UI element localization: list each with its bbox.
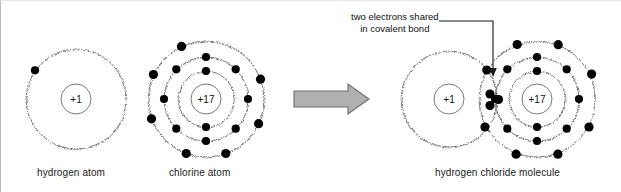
hydrogen-nucleus-charge-label: +1 [70,94,82,105]
electron [480,122,489,131]
hydrogen-electron [31,66,39,74]
electron [533,67,541,75]
electron [503,65,511,73]
electron [172,65,180,73]
electron [482,65,491,74]
electron [244,95,252,103]
molecule-chlorine-charge-label: +17 [529,94,546,105]
annotation-line-2: in covalent bond [351,23,439,35]
electron [563,65,571,73]
electron [202,137,210,145]
caption-hydrogen-chloride-molecule: hydrogen chloride molecule [435,167,560,178]
electron [533,53,541,61]
electron [147,114,156,123]
electron [575,95,583,103]
electron [503,125,511,133]
shared-electron-pair [485,89,503,110]
electron [221,149,230,158]
electron [202,123,210,131]
electron [511,150,520,159]
electron [533,123,541,131]
diagram-canvas: +1 +17 [1,1,621,192]
shared-electron-chlorine [485,101,494,110]
reaction-arrow [294,84,369,114]
electron [563,125,571,133]
electron [160,95,168,103]
chlorine-atom-diagram: +17 [147,41,265,158]
electron [533,137,541,145]
electron [202,67,210,75]
electron [584,122,593,131]
electron [172,125,180,133]
annotation-line-1: two electrons shared [351,11,439,23]
electron [554,40,563,49]
hydrogen-atom-diagram: +1 [26,49,126,149]
block-arrow-shape [294,84,369,114]
electron [587,70,596,79]
figure-covalent-bonding-hcl: +1 +17 [0,0,621,192]
electron [182,149,191,158]
electron [254,119,263,128]
molecule-hydrogen-charge-label: +1 [443,94,455,105]
electron [553,150,562,159]
annotation-shared-electrons: two electrons shared in covalent bond [351,11,439,35]
electron [177,42,186,51]
shared-electron-hydrogen [485,89,494,98]
chlorine-nucleus-charge-label: +17 [198,94,215,105]
hydrogen-chloride-molecule-diagram: +1 +17 [401,21,596,159]
shared-electron-overlap [494,95,503,104]
electron [232,125,240,133]
electron [513,40,522,49]
caption-chlorine-atom: chlorine atom [169,167,230,178]
leader-path [439,21,493,69]
electron [202,53,210,61]
electron [149,70,158,79]
caption-hydrogen-atom: hydrogen atom [37,167,105,178]
electron [232,65,240,73]
electron [256,75,265,84]
